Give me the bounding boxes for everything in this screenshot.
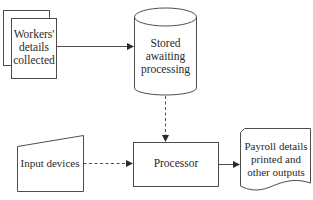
processor-label: Processor xyxy=(134,157,218,170)
workers-details-label: Workers' details collected xyxy=(12,28,56,67)
stored-label: Stored awaiting processing xyxy=(135,37,196,76)
output-label: Payroll details printed and other output… xyxy=(241,140,311,179)
input-devices-label: Input devices xyxy=(17,157,83,170)
